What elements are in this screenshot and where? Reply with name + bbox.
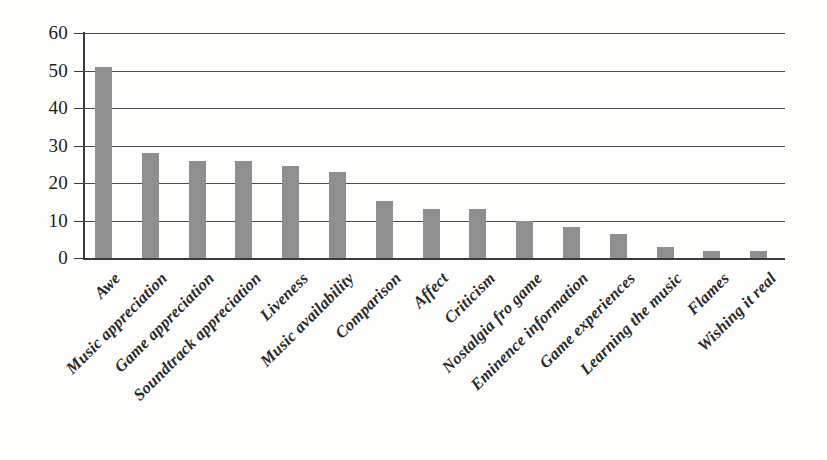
x-axis-category-label-text: Nostalgia fro game <box>439 270 545 376</box>
gridline-30 <box>83 146 785 147</box>
gridline-50 <box>83 71 785 72</box>
x-axis-category-label: Music availability <box>258 270 358 370</box>
bar <box>329 172 346 258</box>
y-axis-tick-20 <box>74 183 84 184</box>
x-axis-category-label-text: Learning the music <box>577 270 685 378</box>
x-axis-category-label-text: Flames <box>684 270 732 318</box>
bar <box>657 247 674 258</box>
x-axis-category-label-text: Liveness <box>257 270 311 324</box>
chart-page: 0102030405060 AweMusic appreciationGame … <box>0 0 827 460</box>
y-axis-tick-label-60: 60 <box>28 23 68 42</box>
x-axis-category-label: Learning the music <box>577 270 685 378</box>
bar <box>376 201 393 258</box>
y-axis-tick-label-20: 20 <box>28 173 68 192</box>
y-axis-tick-label-40: 40 <box>28 98 68 117</box>
x-axis-category-label: Flames <box>684 270 732 318</box>
bar <box>750 251 767 259</box>
bar <box>235 161 252 259</box>
x-axis-category-label-text: Game experiences <box>537 270 639 372</box>
x-axis-category-label-text: Soundtrack appreciation <box>131 270 265 404</box>
x-axis-category-label: Comparison <box>333 270 405 342</box>
x-axis-category-label-text: Comparison <box>333 270 405 342</box>
x-axis-category-label: Wishing it real <box>695 270 780 355</box>
bar <box>189 161 206 259</box>
y-axis-tick-0 <box>74 258 84 259</box>
bar <box>469 209 486 258</box>
bar <box>703 251 720 259</box>
x-axis-category-label: Awe <box>92 270 124 302</box>
bar <box>282 166 299 258</box>
x-axis-category-label: Soundtrack appreciation <box>131 270 265 404</box>
bar <box>423 209 440 258</box>
gridline-40 <box>83 108 785 109</box>
x-axis-category-label-text: Wishing it real <box>695 270 780 355</box>
x-axis-category-label: Eminence information <box>468 270 592 394</box>
gridline-60 <box>83 33 785 34</box>
x-axis-category-label: Game experiences <box>537 270 639 372</box>
bar <box>610 234 627 258</box>
y-axis-tick-label-10: 10 <box>28 211 68 230</box>
x-axis-category-label-text: Affect <box>410 270 451 311</box>
x-axis-category-label-text: Eminence information <box>468 270 592 394</box>
x-axis-category-label-text: Music appreciation <box>64 270 171 377</box>
y-axis-tick-label-50: 50 <box>28 61 68 80</box>
x-axis-category-label: Game appreciation <box>112 270 218 376</box>
x-axis-category-label: Music appreciation <box>64 270 171 377</box>
y-axis-tick-50 <box>74 71 84 72</box>
x-axis-category-label: Affect <box>410 270 451 311</box>
x-axis-category-label-text: Criticism <box>441 270 498 327</box>
bar <box>563 227 580 258</box>
x-axis-category-label-text: Awe <box>92 270 124 302</box>
gridline-0 <box>83 258 785 260</box>
x-axis-category-label: Criticism <box>441 270 498 327</box>
x-axis-category-label-text: Music availability <box>258 270 358 370</box>
y-axis-tick-40 <box>74 108 84 109</box>
x-axis-category-label-text: Game appreciation <box>112 270 218 376</box>
y-axis-tick-label-30: 30 <box>28 136 68 155</box>
y-axis-tick-10 <box>74 221 84 222</box>
bar <box>142 153 159 258</box>
y-axis-tick-30 <box>74 146 84 147</box>
x-axis-category-label: Liveness <box>257 270 311 324</box>
bar <box>516 221 533 259</box>
y-axis-tick-60 <box>74 33 84 34</box>
y-axis-tick-labels: 0102030405060 <box>0 0 68 300</box>
bar <box>95 67 112 258</box>
x-axis-category-label: Nostalgia fro game <box>439 270 545 376</box>
y-axis-tick-label-0: 0 <box>28 248 68 267</box>
plot-area <box>83 33 785 258</box>
